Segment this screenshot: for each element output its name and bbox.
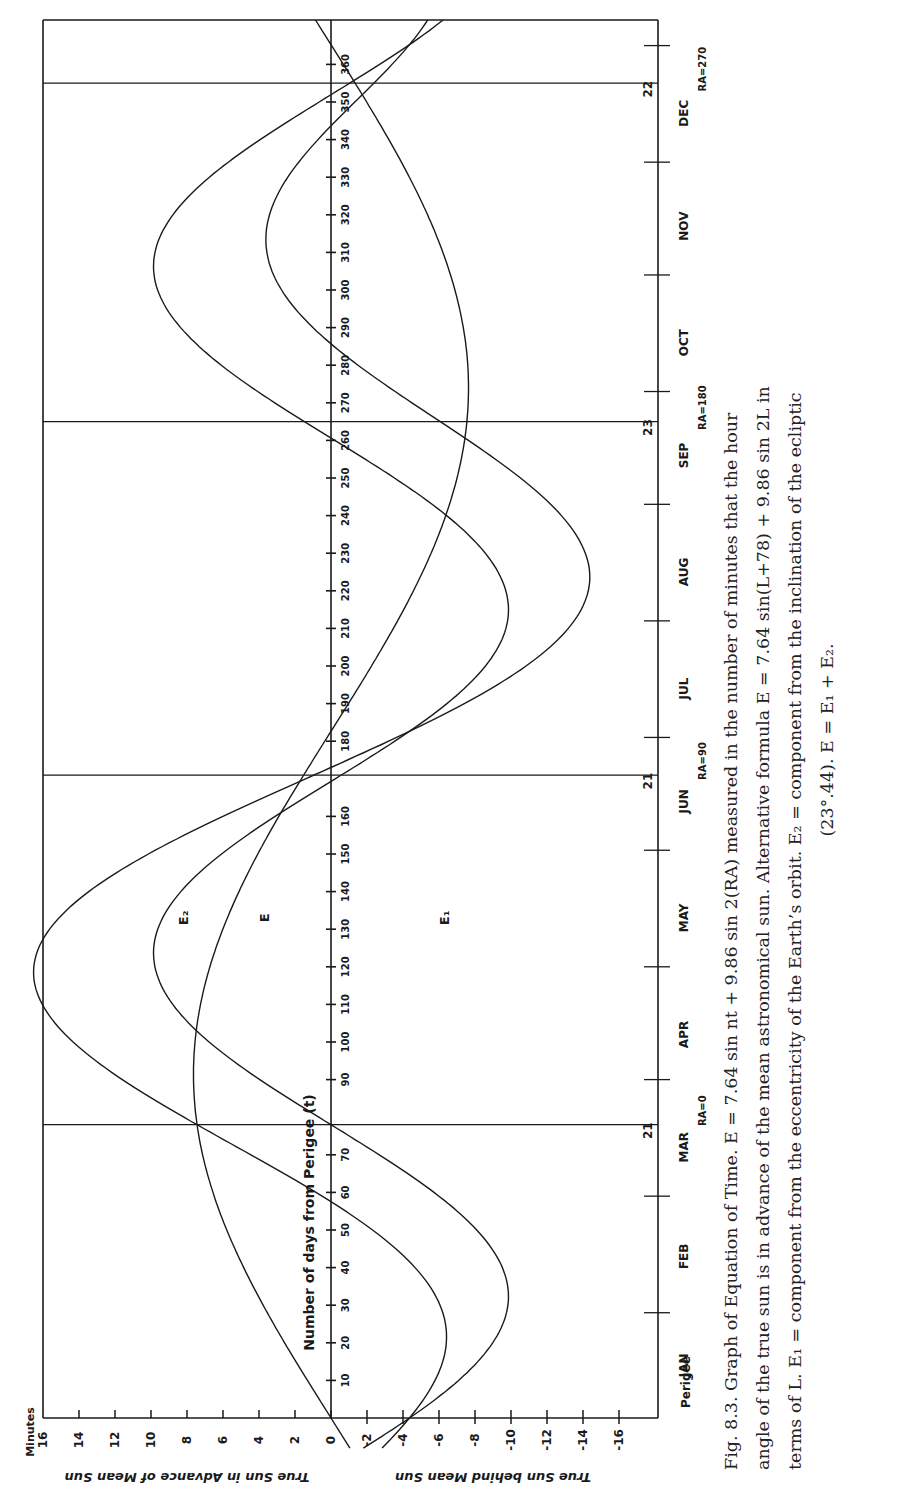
minute-tick-label: -6 [432, 1433, 446, 1446]
month-label-sep: SEP [677, 442, 691, 468]
minute-tick-label: 6 [216, 1436, 230, 1444]
day-tick-label: 50 [340, 1223, 351, 1237]
advance-axis-title: True Sun in Advance of Mean Sun [65, 1470, 310, 1485]
chart-frame [43, 20, 658, 1418]
day-tick-label: 70 [340, 1148, 351, 1162]
month-label-aug: AUG [677, 558, 691, 587]
cardinal-lines [43, 83, 658, 1125]
month-label-apr: APR [677, 1021, 691, 1048]
day-tick-label: 100 [340, 1032, 351, 1053]
day-tick-label: 180 [340, 731, 351, 752]
day-tick-label: 240 [340, 505, 351, 526]
minute-tick-label: -12 [540, 1429, 554, 1451]
day-tick-label: 360 [340, 54, 351, 75]
day-tick-label: 130 [340, 919, 351, 940]
month-label-jun: JUN [677, 789, 691, 814]
cardinal-date-0: 21 [641, 1122, 655, 1139]
minute-tick-label: 12 [108, 1432, 122, 1449]
caption-line-3: terms of L. E₁ = component from the ecce… [779, 10, 811, 1470]
month-label-feb: FEB [677, 1244, 691, 1270]
minute-tick-label: -4 [396, 1433, 410, 1446]
day-tick-label: 120 [340, 956, 351, 977]
day-tick-label: 30 [340, 1298, 351, 1312]
day-tick-label: 210 [340, 618, 351, 639]
minute-tick-label: -16 [612, 1429, 626, 1451]
month-axis: JANFEBMARAPRMAYJUNJULAUGSEPOCTNOVDECPeri… [641, 46, 708, 1408]
figure-caption: Fig. 8.3. Graph of Equation of Time. E =… [715, 10, 843, 1470]
day-tick-label: 20 [340, 1336, 351, 1350]
day-tick-label: 10 [340, 1373, 351, 1387]
cardinal-ra-0: RA=0 [697, 1095, 708, 1126]
month-label-oct: OCT [677, 328, 691, 356]
day-tick-label: 300 [340, 280, 351, 301]
minute-tick-label: 14 [72, 1432, 86, 1449]
curve-label-2: E₁ [437, 911, 452, 926]
minute-tick-label: 4 [252, 1436, 266, 1444]
day-tick-label: 150 [340, 844, 351, 865]
curve-label-0: E₂ [176, 911, 191, 926]
day-tick-label: 110 [340, 994, 351, 1015]
minute-tick-label: -14 [576, 1429, 590, 1451]
minutes-unit-label: Minutes [24, 1407, 37, 1457]
day-tick-label: 340 [340, 129, 351, 150]
month-label-mar: MAR [677, 1132, 691, 1162]
minute-tick-label: 8 [180, 1436, 194, 1444]
day-tick-label: 260 [340, 430, 351, 451]
cardinal-ra-2: RA=180 [697, 385, 708, 430]
minute-tick-label: -2 [360, 1433, 374, 1446]
month-label-nov: NOV [677, 211, 691, 241]
day-tick-label: 140 [340, 881, 351, 902]
day-tick-label: 40 [340, 1261, 351, 1275]
curve-label-1: E [257, 913, 272, 922]
chart-labels: E₂EE₁ [176, 911, 452, 926]
day-tick-label: 60 [340, 1185, 351, 1199]
behind-axis-title: True Sun behind Mean Sun [395, 1470, 591, 1485]
day-tick-label: 350 [340, 92, 351, 113]
day-tick-label: 230 [340, 543, 351, 564]
caption-line-4: (23°.44). E = E₁ + E₂. [811, 10, 843, 1470]
day-tick-label: 200 [340, 656, 351, 677]
minute-tick-label: 16 [36, 1432, 50, 1449]
day-tick-label: 310 [340, 242, 351, 263]
day-tick-label: 320 [340, 204, 351, 225]
minute-tick-label: 10 [144, 1432, 158, 1449]
day-tick-label: 330 [340, 167, 351, 188]
day-tick-label: 250 [340, 468, 351, 489]
cardinal-date-2: 23 [641, 419, 655, 436]
day-tick-label: 290 [340, 317, 351, 338]
day-tick-label: 270 [340, 392, 351, 413]
minute-tick-label: -10 [504, 1429, 518, 1451]
month-label-jul: JUL [677, 677, 691, 700]
month-label-dec: DEC [677, 100, 691, 127]
caption-line-1: Fig. 8.3. Graph of Equation of Time. E =… [715, 10, 747, 1470]
days-axis-title: Number of days from Perigee (t) [301, 1094, 317, 1350]
cardinal-ra-3: RA=270 [697, 47, 708, 92]
month-label-may: MAY [677, 903, 691, 932]
day-tick-label: 160 [340, 806, 351, 827]
cardinal-date-1: 21 [641, 773, 655, 790]
minute-tick-label: -8 [468, 1433, 482, 1446]
cardinal-ra-1: RA=90 [697, 742, 708, 780]
caption-line-2: angle of the true sun is in advance of t… [747, 10, 779, 1470]
day-tick-label: 90 [340, 1073, 351, 1087]
minute-tick-label: 2 [288, 1436, 302, 1444]
minute-tick-label: 0 [324, 1436, 338, 1444]
day-tick-label: 220 [340, 580, 351, 601]
cardinal-date-3: 22 [641, 81, 655, 98]
perigee-label: Perigee [679, 1356, 693, 1408]
